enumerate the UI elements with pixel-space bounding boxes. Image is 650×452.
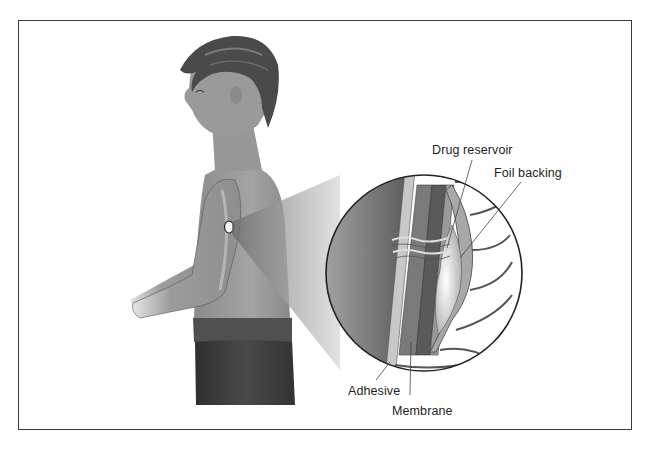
label-drug-reservoir: Drug reservoir: [432, 143, 513, 157]
illustration: [0, 0, 650, 452]
label-adhesive: Adhesive: [348, 384, 400, 398]
label-membrane: Membrane: [392, 404, 453, 418]
pants: [195, 340, 295, 405]
leader-adhesive: [376, 362, 390, 380]
magnified-cross-section: [320, 160, 522, 390]
ear: [230, 86, 242, 104]
waistband: [193, 315, 292, 342]
label-foil-backing: Foil backing: [494, 166, 562, 180]
